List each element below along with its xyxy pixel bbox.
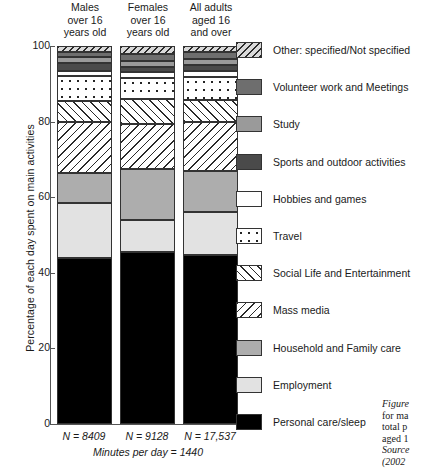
bar-segment-social-life-and-entertainment[interactable] [183, 100, 238, 123]
legend-label: Sports and outdoor activities [273, 156, 406, 168]
legend-label: Volunteer work and Meetings [273, 81, 408, 93]
bar-segment-study[interactable] [183, 59, 238, 65]
bar-segment-personal-care-sleep[interactable] [183, 255, 238, 424]
bar-segment-travel[interactable] [183, 77, 238, 100]
legend-label: Mass media [273, 304, 330, 316]
caption-line: for ma [382, 410, 447, 422]
bar-segment-travel[interactable] [120, 78, 175, 99]
legend-label: Household and Family care [273, 342, 401, 354]
caption-line: (2002 [382, 456, 447, 468]
x-axis-line [50, 424, 246, 425]
y-tick-label-wrap: 80 [0, 122, 50, 123]
caption-line: aged 1 [382, 433, 447, 445]
bar-segment-volunteer-work-and-meetings[interactable] [120, 54, 175, 62]
column-header-line: over 16 [115, 14, 181, 27]
bar-segment-sports-and-outdoor-activities[interactable] [183, 65, 238, 72]
legend-swatch-study [236, 116, 262, 132]
bar-segment-other-specified-not-specified[interactable] [57, 46, 112, 52]
legend-swatch-hobbies [236, 191, 262, 207]
column-header-males: Males over 16 years old [52, 1, 118, 39]
bar-segment-hobbies-and-games[interactable] [183, 71, 238, 77]
figure-caption: Figure for ma total p aged 1 Source (200… [382, 398, 447, 468]
bar-segment-personal-care-sleep[interactable] [57, 258, 112, 424]
legend-swatch-mass_media [236, 302, 262, 318]
y-tick-label: 60 [6, 190, 50, 202]
legend-swatch-volunteer [236, 79, 262, 95]
bar-segment-hobbies-and-games[interactable] [57, 71, 112, 77]
caption-line: Figure [382, 398, 447, 410]
legend-item-household[interactable]: Household and Family care [236, 338, 401, 358]
y-tick-label-wrap: 100 [0, 46, 50, 47]
legend-item-personal[interactable]: Personal care/sleep [236, 412, 366, 432]
bar-segment-sports-and-outdoor-activities[interactable] [120, 67, 175, 73]
bar-all-adults[interactable] [183, 46, 238, 424]
legend-label: Travel [273, 230, 302, 242]
legend-label: Employment [273, 379, 331, 391]
y-tick [50, 424, 55, 425]
bar-segment-other-specified-not-specified[interactable] [183, 46, 238, 52]
bar-segment-mass-media[interactable] [120, 124, 175, 169]
y-tick-label: 80 [6, 115, 50, 127]
bar-females[interactable] [120, 46, 175, 424]
y-tick-label: 0 [6, 417, 50, 429]
legend-item-mass_media[interactable]: Mass media [236, 300, 330, 320]
bar-segment-employment[interactable] [57, 203, 112, 258]
legend-item-social[interactable]: Social Life and Entertainment [236, 263, 410, 283]
bar-segment-study[interactable] [120, 61, 175, 67]
column-header-line: and over [178, 26, 244, 39]
column-header-line: All adults [178, 1, 244, 14]
bar-segment-hobbies-and-games[interactable] [120, 72, 175, 78]
bar-segment-volunteer-work-and-meetings[interactable] [57, 52, 112, 58]
bar-segment-employment[interactable] [120, 220, 175, 252]
legend-swatch-personal [236, 414, 262, 430]
column-header-females: Females over 16 years old [115, 1, 181, 39]
bar-segment-employment[interactable] [183, 212, 238, 255]
y-tick-label-wrap: 40 [0, 273, 50, 274]
legend-swatch-employment [236, 377, 262, 393]
legend-item-employment[interactable]: Employment [236, 375, 331, 395]
bar-segment-study[interactable] [57, 57, 112, 63]
legend-swatch-household [236, 340, 262, 356]
legend-item-sports[interactable]: Sports and outdoor activities [236, 152, 406, 172]
legend-item-other[interactable]: Other: specified/Not specified [236, 40, 410, 60]
column-header-line: Males [52, 1, 118, 14]
column-header-all-adults: All adults aged 16 and over [178, 1, 244, 39]
legend-item-volunteer[interactable]: Volunteer work and Meetings [236, 77, 408, 97]
y-tick-label-wrap: 20 [0, 348, 50, 349]
bar-segment-household-and-family-care[interactable] [57, 173, 112, 203]
legend-swatch-social [236, 265, 262, 281]
bar-segment-household-and-family-care[interactable] [120, 169, 175, 220]
bar-segment-mass-media[interactable] [57, 122, 112, 173]
column-header-line: aged 16 [178, 14, 244, 27]
legend-label: Personal care/sleep [273, 416, 366, 428]
column-header-line: years old [52, 26, 118, 39]
bar-segment-personal-care-sleep[interactable] [120, 252, 175, 424]
legend-swatch-travel [236, 228, 262, 244]
caption-line: Source [382, 444, 447, 456]
bar-segment-volunteer-work-and-meetings[interactable] [183, 52, 238, 58]
legend-label: Study [273, 118, 300, 130]
y-tick-label: 100 [6, 39, 50, 51]
bar-males[interactable] [57, 46, 112, 424]
legend-item-travel[interactable]: Travel [236, 226, 302, 246]
column-header-line: over 16 [52, 14, 118, 27]
bar-segment-social-life-and-entertainment[interactable] [120, 99, 175, 124]
legend-label: Social Life and Entertainment [273, 267, 410, 279]
bar-segment-other-specified-not-specified[interactable] [120, 46, 175, 54]
bar-segment-social-life-and-entertainment[interactable] [57, 101, 112, 122]
column-header-line: years old [115, 26, 181, 39]
y-tick-label: 40 [6, 266, 50, 278]
bar-segment-mass-media[interactable] [183, 122, 238, 170]
y-tick-label-wrap: 0 [0, 424, 50, 425]
bar-segment-travel[interactable] [57, 76, 112, 101]
legend-item-hobbies[interactable]: Hobbies and games [236, 189, 366, 209]
bar-segment-household-and-family-care[interactable] [183, 171, 238, 212]
plot-area [50, 46, 246, 424]
y-tick-label-wrap: 60 [0, 197, 50, 198]
legend-item-study[interactable]: Study [236, 114, 300, 134]
legend-swatch-sports [236, 154, 262, 170]
y-tick-label: 20 [6, 341, 50, 353]
minutes-per-day-note: Minutes per day = 1440 [50, 446, 246, 458]
bar-segment-sports-and-outdoor-activities[interactable] [57, 63, 112, 71]
